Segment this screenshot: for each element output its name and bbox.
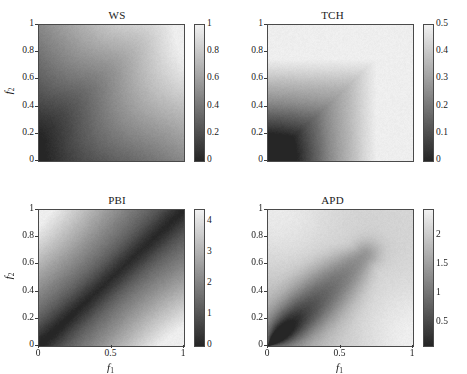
y-tick-label: 0.2	[237, 127, 263, 137]
x-tick-label: 0	[252, 348, 282, 358]
x-tick-mark	[340, 345, 341, 348]
panel-title-pbi: PBI	[0, 194, 234, 206]
y-tick-label: 0.8	[237, 230, 263, 240]
x-axis-label: f1	[91, 361, 131, 374]
x-tick-label: 0.5	[325, 348, 355, 358]
colorbar-tick-label: 0.5	[436, 316, 448, 326]
colorbar-tick-label: 0.3	[436, 72, 448, 82]
colorbar-ws	[194, 24, 205, 162]
y-tick-label: 1	[237, 203, 263, 213]
y-tick-mark	[35, 160, 38, 161]
colorbar-tick-label: 0.2	[436, 100, 448, 110]
panel-title-ws: WS	[0, 9, 234, 21]
colorbar-tick-label: 1	[207, 308, 212, 318]
x-tick-mark	[412, 345, 413, 348]
panel-apd: APD 00.20.40.60.8100.51f10.511.52	[234, 187, 467, 374]
y-tick-label: 0.2	[8, 127, 34, 137]
y-axis-label-text: f	[2, 91, 14, 94]
y-tick-label: 0.8	[8, 45, 34, 55]
colorbar-tick-label: 0.4	[207, 100, 219, 110]
panel-pbi: PBI 00.20.40.60.8100.51f2f101234	[0, 187, 234, 374]
y-tick-label: 0.2	[8, 312, 34, 322]
colorbar-apd	[423, 209, 434, 347]
y-tick-mark	[35, 78, 38, 79]
y-tick-label: 0	[8, 154, 34, 164]
colorbar-tick-label: 4	[207, 215, 212, 225]
colorbar-tick-label: 3	[207, 246, 212, 256]
colorbar-pbi	[194, 209, 205, 347]
y-tick-mark	[35, 236, 38, 237]
y-tick-label: 0.8	[237, 45, 263, 55]
y-tick-mark	[264, 291, 267, 292]
y-tick-mark	[35, 51, 38, 52]
y-tick-mark	[35, 106, 38, 107]
y-axis-label: f2	[2, 76, 16, 106]
y-tick-mark	[264, 318, 267, 319]
x-tick-mark	[111, 345, 112, 348]
y-axis-label-sub: 2	[7, 273, 16, 277]
colorbar-tick-label: 0.8	[207, 45, 219, 55]
y-tick-label: 1	[237, 18, 263, 28]
x-tick-label: 1	[397, 348, 427, 358]
y-axis-label: f2	[2, 261, 16, 291]
colorbar-tick-label: 2	[436, 229, 441, 239]
heatmap-pbi	[38, 209, 185, 347]
y-tick-label: 0.8	[8, 230, 34, 240]
y-tick-label: 1	[8, 18, 34, 28]
y-axis-label-sub: 2	[7, 88, 16, 92]
colorbar-tick-label: 1.5	[436, 258, 448, 268]
colorbar-tick-label: 0	[436, 154, 441, 164]
colorbar-tick-label: 0	[207, 154, 212, 164]
colorbar-tick-label: 0.6	[207, 72, 219, 82]
x-tick-mark	[267, 345, 268, 348]
colorbar-tick-label: 0.5	[436, 18, 448, 28]
y-tick-mark	[264, 78, 267, 79]
x-tick-label: 0.5	[96, 348, 126, 358]
y-tick-mark	[35, 24, 38, 25]
y-tick-mark	[264, 51, 267, 52]
y-tick-mark	[35, 133, 38, 134]
y-tick-mark	[264, 160, 267, 161]
y-tick-label: 0.2	[237, 312, 263, 322]
y-tick-mark	[264, 236, 267, 237]
y-tick-label: 0.4	[237, 100, 263, 110]
x-tick-label: 1	[168, 348, 198, 358]
heatmap-apd	[267, 209, 414, 347]
y-tick-label: 0	[237, 154, 263, 164]
y-tick-mark	[35, 263, 38, 264]
heatmap-tch	[267, 24, 414, 162]
colorbar-tick-label: 1	[207, 18, 212, 28]
colorbar-tick-label: 0	[207, 339, 212, 349]
x-axis-label-sub: 1	[110, 366, 114, 374]
y-tick-mark	[264, 133, 267, 134]
y-tick-mark	[264, 106, 267, 107]
figure-canvas: WS 00.20.40.60.81f200.20.40.60.81 TCH 00…	[0, 0, 467, 374]
y-axis-label-text: f	[2, 276, 14, 279]
panel-ws: WS 00.20.40.60.81f200.20.40.60.81	[0, 0, 234, 187]
y-tick-mark	[35, 209, 38, 210]
x-tick-mark	[38, 345, 39, 348]
panel-tch: TCH 00.20.40.60.8100.10.20.30.40.5	[234, 0, 467, 187]
colorbar-tick-label: 0.1	[436, 127, 448, 137]
x-axis-label: f1	[320, 361, 360, 374]
y-tick-label: 0.6	[237, 257, 263, 267]
heatmap-ws	[38, 24, 185, 162]
y-tick-mark	[35, 318, 38, 319]
x-tick-mark	[183, 345, 184, 348]
y-tick-label: 0.4	[237, 285, 263, 295]
y-tick-label: 0.6	[237, 72, 263, 82]
y-tick-label: 1	[8, 203, 34, 213]
colorbar-tch	[423, 24, 434, 162]
colorbar-tick-label: 0.4	[436, 45, 448, 55]
x-tick-label: 0	[23, 348, 53, 358]
y-tick-mark	[264, 263, 267, 264]
x-axis-label-sub: 1	[339, 366, 343, 374]
y-tick-mark	[264, 24, 267, 25]
colorbar-tick-label: 0.2	[207, 127, 219, 137]
colorbar-tick-label: 1	[436, 287, 441, 297]
y-tick-mark	[35, 291, 38, 292]
colorbar-tick-label: 2	[207, 277, 212, 287]
y-tick-mark	[264, 209, 267, 210]
